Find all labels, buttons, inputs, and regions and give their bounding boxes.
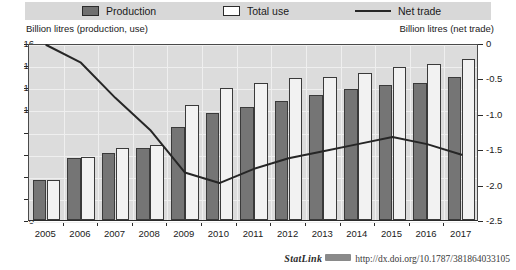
net-trade-polyline: [46, 45, 461, 183]
statlink-url[interactable]: http://dx.doi.org/10.1787/381864033105: [355, 254, 510, 264]
chart-figure: Production Total use Net trade Billion l…: [0, 0, 516, 270]
legend-item-total-use: Total use: [223, 6, 289, 17]
y-axis-tick-label-right: -0.5: [486, 74, 512, 83]
legend-item-production: Production: [82, 6, 156, 17]
statlink-badge-icon: [325, 254, 351, 261]
y-axis-tick-label-right: 0: [486, 39, 512, 48]
plot-area: [28, 44, 478, 221]
y-axis-tick-label-right: -1.5: [486, 145, 512, 154]
y-axis-tick-label-right: -2.5: [486, 216, 512, 225]
net-trade-line: [29, 45, 479, 222]
y-axis-tick-label-right: -2.0: [486, 181, 512, 190]
net-trade-line-swatch-icon: [355, 10, 391, 12]
legend-label-total-use: Total use: [247, 6, 289, 17]
legend-item-net-trade: Net trade: [355, 6, 441, 17]
left-axis-title: Billion litres (production, use): [26, 23, 148, 34]
y-axis-tick-label-right: -1.0: [486, 110, 512, 119]
x-axis-tick-label-2017: 2017: [439, 229, 483, 239]
statlink-footer: StatLinkhttp://dx.doi.org/10.1787/381864…: [0, 248, 516, 266]
legend-label-production: Production: [106, 6, 156, 17]
total-use-swatch-icon: [223, 6, 240, 16]
production-swatch-icon: [82, 6, 99, 16]
y-axis-tickmark-left: [24, 221, 28, 222]
chart-legend: Production Total use Net trade: [25, 2, 491, 20]
legend-label-net-trade: Net trade: [398, 6, 441, 17]
gridline-horizontal: [29, 222, 477, 223]
statlink-label: StatLink: [284, 253, 322, 264]
right-axis-title: Billion litres (net trade): [399, 23, 494, 34]
